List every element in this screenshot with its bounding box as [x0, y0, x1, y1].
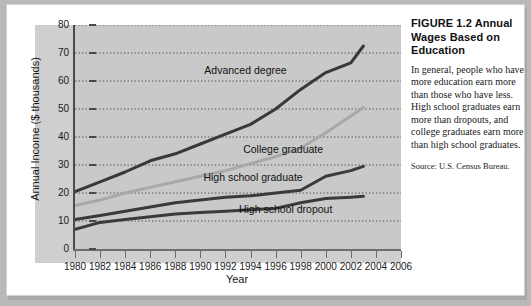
- x-tick-mark: [225, 251, 226, 258]
- page-card: 01020304050607080 1980198219841986198819…: [6, 4, 525, 296]
- x-tick-mark: [100, 251, 101, 258]
- y-tick-label: 0: [43, 244, 69, 254]
- x-tick-mark: [251, 251, 252, 258]
- x-axis-title: Year: [73, 273, 401, 285]
- x-tick-mark: [276, 251, 277, 258]
- y-tick-mark: [89, 192, 96, 194]
- y-tick-label: 80: [43, 20, 69, 30]
- figure-caption-body: In general, people who have more educati…: [411, 64, 531, 152]
- chart-svg: [75, 25, 401, 249]
- y-tick-label: 20: [43, 188, 69, 198]
- series-line-1: [75, 108, 363, 206]
- y-tick-mark: [89, 52, 96, 54]
- figure-screenshot: 01020304050607080 1980198219841986198819…: [0, 0, 531, 306]
- x-tick-mark: [200, 251, 201, 258]
- x-tick-mark: [175, 251, 176, 258]
- y-tick-mark: [89, 24, 96, 26]
- y-tick-label: 60: [43, 76, 69, 86]
- y-tick-mark: [89, 108, 96, 110]
- x-tick-mark: [376, 251, 377, 258]
- series-label-2: High school graduate: [203, 171, 302, 183]
- series-label-0: Advanced degree: [204, 64, 286, 76]
- y-tick-mark: [89, 136, 96, 138]
- y-tick-label: 50: [43, 104, 69, 114]
- chart-container: 01020304050607080 1980198219841986198819…: [17, 11, 401, 279]
- y-axis-ticks: 01020304050607080: [39, 11, 69, 279]
- x-tick-mark: [401, 251, 402, 258]
- figure-caption-source: Source: U.S. Census Bureau.: [411, 161, 531, 172]
- y-axis-title: Annual Income ($ thousands): [29, 19, 41, 239]
- y-tick-label: 40: [43, 132, 69, 142]
- x-tick-mark: [150, 251, 151, 258]
- x-tick-mark: [125, 251, 126, 258]
- y-tick-mark: [89, 220, 96, 222]
- figure-block: 01020304050607080 1980198219841986198819…: [17, 11, 401, 283]
- x-tick-mark: [301, 251, 302, 258]
- x-tick-mark: [351, 251, 352, 258]
- y-tick-label: 30: [43, 160, 69, 170]
- series-label-3: High school dropout: [239, 203, 332, 215]
- y-tick-mark: [89, 164, 96, 166]
- y-tick-label: 70: [43, 48, 69, 58]
- y-axis-line: [73, 25, 75, 251]
- figure-caption-title: FIGURE 1.2 Annual Wages Based on Educati…: [411, 17, 531, 58]
- series-label-1: College graduate: [243, 143, 323, 155]
- y-tick-label: 10: [43, 216, 69, 226]
- x-tick-mark: [75, 251, 76, 258]
- y-tick-mark: [89, 248, 96, 250]
- x-tick-mark: [326, 251, 327, 258]
- figure-caption-column: FIGURE 1.2 Annual Wages Based on Educati…: [411, 17, 531, 281]
- plot-area: [75, 25, 401, 249]
- y-tick-mark: [89, 80, 96, 82]
